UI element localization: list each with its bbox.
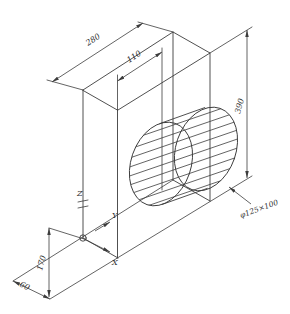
dim-origin-offset-label: 60 xyxy=(18,280,31,293)
cylinder-size-label: φ125×100 xyxy=(239,198,280,220)
dim-depth-label: 280 xyxy=(83,32,102,48)
dim-height-label: 390 xyxy=(233,97,246,114)
axis-y-label: Y xyxy=(112,211,118,220)
dimension-lines xyxy=(13,23,251,299)
x-axis-arrow xyxy=(84,239,110,252)
axis-x-label: X xyxy=(111,258,118,267)
isometric-drawing: 280 110 390 170 60 φ125×100 Z Y X xyxy=(0,0,290,314)
technical-drawing-canvas: 280 110 390 170 60 φ125×100 Z Y X xyxy=(0,0,290,314)
cylinder-leader-line xyxy=(229,187,251,204)
axis-z-label: Z xyxy=(76,189,83,198)
dim-origin-height-label: 170 xyxy=(35,254,48,271)
y-axis-arrow xyxy=(95,222,110,231)
drawing-root: 280 110 390 170 60 φ125×100 Z Y X xyxy=(13,22,280,299)
box-wireframe xyxy=(83,32,210,258)
dim-width-label: 110 xyxy=(125,49,143,65)
